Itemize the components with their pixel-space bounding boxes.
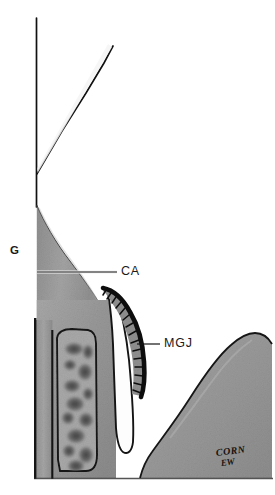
trabecular-marrow (57, 329, 97, 472)
anatomical-figure: G CA MGJ CORN EW (0, 0, 275, 495)
label-crest-alveolar: CA (121, 265, 140, 278)
artist-signature-initials: EW (220, 457, 234, 468)
cortical-plate (35, 318, 53, 479)
label-mucogingival-junction: MGJ (164, 337, 193, 350)
alveolar-bone-right-peak (140, 333, 272, 478)
periodontium-illustration (0, 0, 275, 495)
tooth-crown-outline (37, 18, 114, 207)
label-gingiva: G (10, 245, 20, 257)
